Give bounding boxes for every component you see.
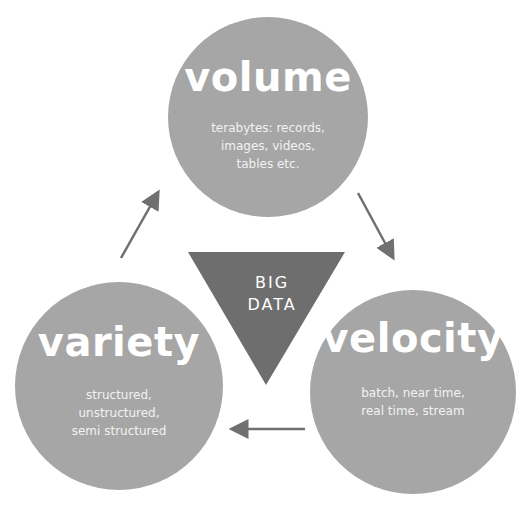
variety-desc-line: unstructured, xyxy=(15,404,223,422)
volume-title: volume xyxy=(168,57,368,97)
big-data-line2: DATA xyxy=(222,294,322,316)
variety-title: variety xyxy=(15,322,223,362)
arrow-down-right-icon xyxy=(358,193,391,254)
velocity-description: batch, near time, real time, stream xyxy=(310,384,516,420)
big-data-label: BIG DATA xyxy=(222,272,322,316)
variety-desc-line: semi structured xyxy=(15,422,223,440)
velocity-circle: velocity batch, near time, real time, st… xyxy=(310,290,516,494)
volume-desc-line: tables etc. xyxy=(168,155,368,173)
velocity-title: velocity xyxy=(310,318,516,358)
velocity-desc-line: real time, stream xyxy=(310,402,516,420)
volume-circle: volume terabytes: records, images, video… xyxy=(168,17,368,217)
variety-desc-line: structured, xyxy=(15,386,223,404)
big-data-line1: BIG xyxy=(222,272,322,294)
variety-description: structured, unstructured, semi structure… xyxy=(15,386,223,440)
variety-circle: variety structured, unstructured, semi s… xyxy=(15,282,223,490)
volume-desc-line: terabytes: records, xyxy=(168,119,368,137)
arrow-up-right-icon xyxy=(121,196,156,258)
volume-description: terabytes: records, images, videos, tabl… xyxy=(168,119,368,173)
volume-desc-line: images, videos, xyxy=(168,137,368,155)
velocity-desc-line: batch, near time, xyxy=(310,384,516,402)
